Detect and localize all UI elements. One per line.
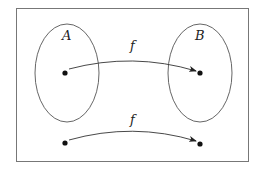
arrow-f-bottom: f <box>62 112 202 147</box>
point-bottom-left <box>62 140 67 145</box>
arrow-f-bottom-curve <box>69 131 196 141</box>
arrow-f-bottom-label: f <box>129 112 137 127</box>
set-b: B <box>168 24 232 122</box>
diagram-canvas: A B f f <box>0 0 263 171</box>
arrow-f-top-label: f <box>129 38 137 53</box>
set-b-label: B <box>194 28 205 43</box>
set-a-label: A <box>61 28 71 43</box>
point-bottom-right <box>197 141 202 146</box>
point-in-a <box>62 70 67 75</box>
arrow-f-top: f <box>69 38 196 71</box>
arrow-f-top-curve <box>69 61 196 71</box>
frame-border <box>17 9 249 162</box>
set-a: A <box>35 24 99 122</box>
point-in-b <box>197 70 202 75</box>
